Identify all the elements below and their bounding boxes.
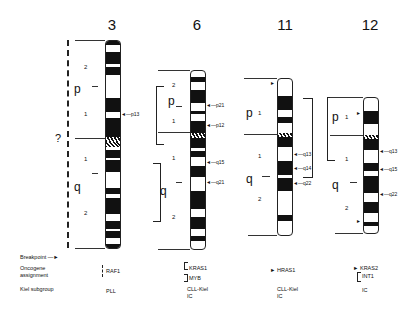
chromosome-11-breakpoint-q13: ◄—q13 <box>293 151 311 157</box>
chromosome-12-bottom-line <box>335 233 363 234</box>
chromosome-6-region-p1: 1 <box>172 118 175 124</box>
arrow-right-icon: ► <box>353 265 360 271</box>
chromosome-6-p21-tick <box>176 106 182 107</box>
chromosome-11-breakpoint-p15: ► <box>270 80 275 86</box>
chromosome-6-region-q2: 2 <box>172 214 175 220</box>
chromosome-12-q-arm-label: q <box>332 178 339 192</box>
chromosome-6-q21-tick <box>176 182 182 183</box>
chromosome-3-kiel-subgroup: PLL <box>106 288 116 295</box>
chromosome-12-breakpoint-q24: ► <box>356 218 361 224</box>
chromosome-3-q21-tick <box>92 173 98 174</box>
arrow-left-icon: ◄— <box>293 151 303 157</box>
chromosome-12-q21-tick <box>350 182 357 183</box>
chromosome-6-ideogram <box>190 70 206 250</box>
chromosome-3-dashed-bracket <box>67 40 69 248</box>
arrow-left-icon: ◄— <box>206 102 216 108</box>
chromosome-12-breakpoint-q13: ◄—q13 <box>379 148 397 154</box>
chromosome-3-region-q1: 1 <box>84 156 87 162</box>
legend-breakpoint-label: Breakpoint —► <box>20 254 59 261</box>
chromosome-6-gene-bracket-bottom <box>184 274 188 282</box>
chromosome-12-region-q1: 1 <box>345 156 348 162</box>
chromosome-6-breakpoint-p12: ◄—p12 <box>206 122 224 128</box>
chromosome-6-bottom-line <box>158 249 190 250</box>
chromosome-3-uncertain-label: ? <box>55 132 61 144</box>
chromosome-12-breakpoint-p12: ► <box>356 110 361 116</box>
arrow-left-icon: ◄— <box>206 179 216 185</box>
chromosome-3-breakpoint-p13: ◄—p13 <box>121 111 139 117</box>
chromosome-12-top-line <box>330 97 363 98</box>
chromosome-6-gene-bracket-top <box>184 262 188 270</box>
chromosome-11-bottom-line <box>248 235 277 236</box>
arrow-left-icon: ◄— <box>293 165 303 171</box>
chromosome-11-oncogene: ► HRAS1 <box>270 267 295 274</box>
chromosome-11-region-q1: 1 <box>258 153 261 159</box>
chromosome-3-ideogram <box>105 40 121 249</box>
chromosome-11-p-arm-label: p <box>246 106 253 120</box>
chromosome-3-region-p1: 1 <box>84 111 87 117</box>
arrow-right-icon: —► <box>48 254 59 260</box>
arrow-left-icon: ◄— <box>379 166 389 172</box>
chromosome-6-p-arm-label: p <box>168 94 175 108</box>
chromosome-6-breakpoint-q15: ◄—q15 <box>206 159 224 165</box>
chromosome-12-breakpoint-q22: ◄—q22 <box>379 191 397 197</box>
chromosome-6-kiel-line2: IC <box>187 293 193 300</box>
chromosome-12-gene-bracket <box>357 272 361 282</box>
chromosome-figure: 3 p q ? 2 1 1 2 ◄—p13 <box>0 0 414 315</box>
arrow-left-icon: ◄— <box>379 191 389 197</box>
chromosome-12-oncogene-int1: INT1 <box>362 273 374 280</box>
chromosome-3-p-arm-label: p <box>74 82 81 96</box>
chromosome-12-title: 12 <box>355 16 385 33</box>
chromosome-3-title: 3 <box>97 16 127 33</box>
chromosome-6-breakpoint-q21: ◄—q21 <box>206 179 224 185</box>
legend-oncogene-label: Oncogene assignment <box>20 265 48 278</box>
chromosome-11-centromere-line <box>244 134 277 135</box>
chromosome-6-region-q1: 1 <box>172 155 175 161</box>
chromosome-12-centromere-line <box>330 135 363 136</box>
chromosome-11-q21-tick <box>262 176 270 177</box>
chromosome-6-oncogene-myb: MYB <box>189 275 201 282</box>
chromosome-3-top-line <box>75 40 105 41</box>
chromosome-12-oncogene-kras2: ► KRAS2 <box>353 265 378 272</box>
chromosome-3-region-p2: 2 <box>84 64 87 70</box>
chromosome-11-region-q2: 2 <box>258 196 261 202</box>
chromosome-12-breakpoint-q15: ◄—q15 <box>379 166 397 172</box>
arrow-right-icon: ► <box>270 267 277 273</box>
chromosome-11-title: 11 <box>270 16 300 33</box>
chromosome-6-q-arm-label: q <box>160 184 167 198</box>
chromosome-6-p-bracket <box>156 86 164 145</box>
chromosome-11-breakpoint-q22: ◄—q22 <box>293 180 311 186</box>
arrow-left-icon: ◄— <box>293 180 303 186</box>
chromosome-6-kiel-line1: CLL-Kiel <box>187 286 208 293</box>
chromosome-3-q-arm-label: q <box>74 180 81 194</box>
chromosome-11-q-arm-label: q <box>246 172 253 186</box>
arrow-right-icon: ► <box>270 80 275 86</box>
chromosome-6-oncogene-kras1: KRAS1 <box>189 265 207 272</box>
chromosome-11-kiel-line1: CLL-Kiel <box>277 286 298 293</box>
chromosome-12-left-bracket <box>327 97 335 161</box>
chromosome-11-kiel-line2: IC <box>277 293 283 300</box>
chromosome-11-breakpoint-q14: ◄—q14 <box>293 165 311 171</box>
chromosome-6-region-p2: 2 <box>172 82 175 88</box>
chromosome-12-kiel-subgroup: IC <box>362 287 368 294</box>
arrow-left-icon: ◄— <box>121 111 131 117</box>
chromosome-3-p21-tick <box>92 86 98 87</box>
chromosome-6-title: 6 <box>182 16 212 33</box>
chromosome-3-centromere-line <box>75 138 105 139</box>
arrow-left-icon: ◄— <box>206 122 216 128</box>
legend-kiel-label: Kiel subgroup <box>20 286 54 293</box>
arrow-right-icon: ► <box>356 110 361 116</box>
chromosome-12-region-p1: 1 <box>345 114 348 120</box>
chromosome-6-top-line <box>158 70 190 71</box>
chromosome-3-region-q2: 2 <box>84 210 87 216</box>
chromosome-11-region-p1: 1 <box>258 110 261 116</box>
chromosome-3-bottom-line <box>75 248 105 249</box>
chromosome-6-breakpoint-p21: ◄—p21 <box>206 102 224 108</box>
chromosome-12-region-q2: 2 <box>345 205 348 211</box>
chromosome-3-oncogene-dashed-marker <box>102 265 103 277</box>
arrow-left-icon: ◄— <box>206 159 216 165</box>
arrow-left-icon: ◄— <box>379 148 389 154</box>
chromosome-3-oncogene: RAF1 <box>106 268 120 275</box>
chromosome-11-ideogram <box>277 78 293 236</box>
chromosome-11-top-line <box>244 78 277 79</box>
chromosome-6-centromere-line <box>158 132 190 133</box>
